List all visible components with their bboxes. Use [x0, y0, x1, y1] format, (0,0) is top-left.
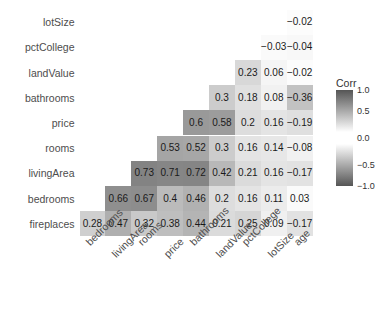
legend-title: Corr — [336, 78, 356, 89]
row-label-fireplaces: fireplaces — [0, 219, 75, 230]
heatmap-cell-value: 0.23 — [235, 68, 261, 78]
row-label-pctcollege: pctCollege — [0, 42, 75, 53]
row-label-livingarea: livingArea — [0, 168, 75, 179]
heatmap-cell-value: 0.2 — [235, 118, 261, 128]
heatmap-cell-value: 0.72 — [183, 168, 209, 178]
legend-tick-label: −1.0 — [357, 182, 375, 191]
legend-tick-label: 0.0 — [357, 134, 370, 143]
legend-gradient-positive — [336, 90, 353, 132]
heatmap-cell-value: −0.03 — [261, 42, 287, 52]
heatmap-cell-value: 0.03 — [287, 194, 313, 204]
heatmap-cell-value: 0.3 — [209, 143, 235, 153]
row-label-lotsize: lotSize — [0, 17, 75, 28]
heatmap-cell-value: 0.52 — [183, 143, 209, 153]
row-label-landvalue: landValue — [0, 68, 75, 79]
heatmap-cell-value: 0.16 — [261, 168, 287, 178]
heatmap-cell-value: 0.4 — [157, 194, 183, 204]
row-label-bedrooms: bedrooms — [0, 194, 75, 205]
legend-tick-label: 1.0 — [357, 86, 370, 95]
heatmap-cell-value: 0.14 — [261, 143, 287, 153]
correlation-heatmap: −0.02−0.03−0.040.230.06−0.020.30.180.08−… — [0, 0, 386, 321]
row-label-rooms: rooms — [0, 143, 75, 154]
heatmap-cell-value: 0.46 — [183, 194, 209, 204]
heatmap-cell-value: 0.18 — [235, 93, 261, 103]
column-label-price: price — [162, 236, 186, 260]
heatmap-cell-value: 0.16 — [261, 118, 287, 128]
legend-tick-label: 0.5 — [357, 107, 370, 116]
heatmap-cell-value: 0.42 — [209, 168, 235, 178]
heatmap-cell-value: 0.73 — [131, 168, 157, 178]
heatmap-cell-value: 0.06 — [261, 68, 287, 78]
heatmap-cell-value: −0.19 — [287, 118, 313, 128]
heatmap-cell-value: −0.08 — [287, 143, 313, 153]
heatmap-cell-value: 0.2 — [209, 194, 235, 204]
heatmap-cell-value: 0.3 — [209, 93, 235, 103]
heatmap-cell-value: 0.53 — [157, 143, 183, 153]
heatmap-cell-value: 0.11 — [261, 194, 287, 204]
legend-gradient-negative — [336, 144, 353, 186]
heatmap-cell-value: 0.16 — [235, 194, 261, 204]
heatmap-cell-value: 0.67 — [131, 194, 157, 204]
heatmap-cell-value: 0.16 — [235, 143, 261, 153]
heatmap-cell-value: −0.17 — [287, 168, 313, 178]
heatmap-cell-value: −0.02 — [287, 17, 313, 27]
heatmap-cell-value: 0.08 — [261, 93, 287, 103]
heatmap-cell-value: 0.58 — [209, 118, 235, 128]
heatmap-cell-value: −0.17 — [287, 219, 313, 229]
heatmap-cell-value: 0.66 — [105, 194, 131, 204]
row-label-price: price — [0, 118, 75, 129]
heatmap-cell-value: −0.36 — [287, 93, 313, 103]
heatmap-cell-value: 0.71 — [157, 168, 183, 178]
legend-tick-label: −0.5 — [357, 161, 375, 170]
heatmap-cell-value: −0.02 — [287, 68, 313, 78]
heatmap-cell-value: 0.6 — [183, 118, 209, 128]
heatmap-cell-value: 0.21 — [235, 168, 261, 178]
heatmap-cell-value: −0.04 — [287, 42, 313, 52]
row-label-bathrooms: bathrooms — [0, 93, 75, 104]
